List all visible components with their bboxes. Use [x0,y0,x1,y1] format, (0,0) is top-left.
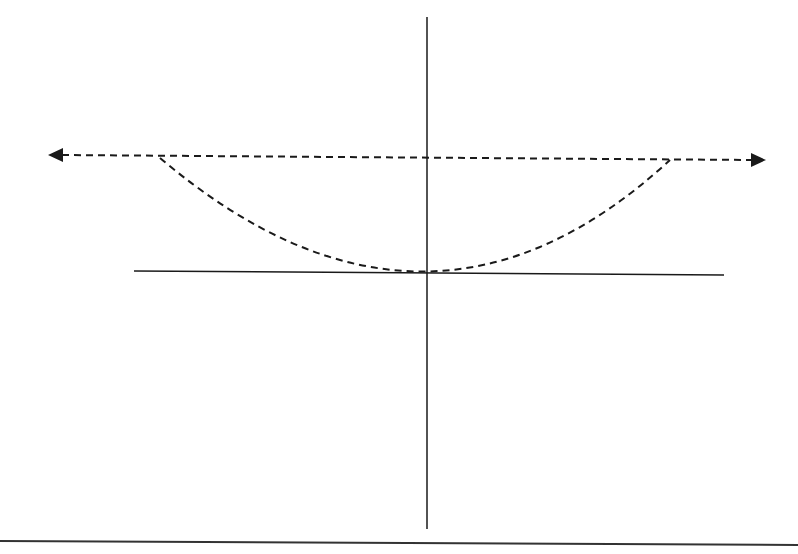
arrowhead-left-icon [48,148,63,162]
dashed-double-arrow [62,155,752,160]
arrowhead-right-icon [751,153,766,167]
dashed-parabola-curve [160,158,670,272]
diagram-canvas [0,0,798,554]
bottom-rule [0,541,798,545]
horizontal-tangent-line [134,271,724,275]
